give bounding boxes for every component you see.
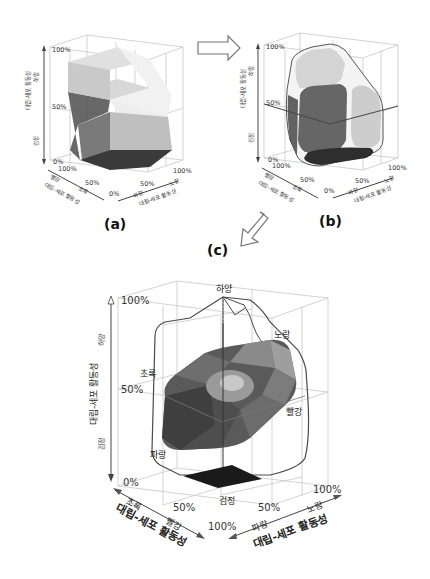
panel-a: 대립-세포 활동성 하양 검정 100% 50% 0% 100% 50% 0% … — [24, 35, 192, 232]
panel-a-arrowhead-up-icon — [42, 45, 46, 51]
panel-c-vertical-bottom-end: 검정 — [97, 438, 106, 450]
panel-c-left-arrowhead-2-icon — [196, 532, 205, 539]
panel-c-tick-l-100: 100% — [208, 521, 237, 532]
panel-b: 대립-세포 활동성 하양 검정 100% 50% 0% 100% 50% 0% … — [239, 33, 407, 229]
panel-a-tick-r-100: 100% — [173, 167, 192, 175]
panel-c-tick-r-50: 50% — [258, 502, 280, 513]
panel-c-right-end-a: 파랑 — [250, 518, 269, 534]
panel-a-tick-v-50: 50% — [52, 103, 66, 111]
panel-c-vertical-axis-title: 대립-세포 활동성 — [88, 363, 99, 425]
panel-a-vertical-top-end: 하양 — [32, 72, 40, 82]
panel-a-color-solid — [68, 47, 172, 170]
panel-c-tick-v-100: 100% — [121, 295, 150, 306]
panel-c-label-yellow: 노랑 — [274, 329, 290, 340]
panel-a-left-end-a: 빨강 — [50, 173, 62, 184]
panel-c-arrowhead-down-icon — [108, 474, 114, 482]
panel-b-tick-r-50: 50% — [355, 177, 369, 185]
arrow-down-left-icon — [241, 212, 268, 246]
figure-canvas: 대립-세포 활동성 하양 검정 100% 50% 0% 100% 50% 0% … — [0, 0, 430, 579]
panel-a-tick-l-100: 100% — [58, 165, 77, 173]
panel-c-hue-slice — [162, 340, 305, 450]
panel-c-left-arrowhead-icon — [113, 488, 122, 495]
panel-c-black-base — [183, 465, 262, 488]
panel-a-tick-l-0: 0% — [109, 190, 119, 198]
panel-b-color-solid — [264, 44, 398, 166]
panel-b-right-end-a: 파랑 — [347, 186, 359, 197]
panel-c-right-axis-title: 대립-세포 활동성 — [251, 511, 329, 551]
arrow-right-icon — [198, 36, 240, 60]
panel-b-vertical-bottom-end: 검정 — [248, 133, 254, 143]
panel-c-label-blue: 파랑 — [150, 449, 166, 460]
panel-a-left-end-b: 초록 — [77, 186, 89, 197]
panel-c-tick-l-50: 50% — [173, 502, 195, 513]
panel-c-label-red: 빨강 — [286, 407, 302, 417]
panel-c-right-arrowhead-icon — [228, 533, 237, 539]
panel-a-tick-l-50: 50% — [85, 179, 99, 187]
panel-b-arrowhead-down-icon — [256, 157, 260, 163]
panel-b-tick-l-100: 100% — [272, 162, 291, 170]
panel-c-tick-v-0: 0% — [123, 477, 139, 488]
panel-a-vertical-axis-title: 대립-세포 활동성 — [24, 71, 32, 110]
panel-c-tick-r-100: 100% — [313, 484, 342, 495]
panel-c-label-black: 검정 — [219, 495, 235, 506]
panel-c-label-white: 하양 — [216, 284, 232, 294]
panel-a-tick-r-50: 50% — [140, 180, 154, 188]
panel-c-tick-v-50: 50% — [121, 384, 143, 395]
panel-a-vertical-bottom-end: 검정 — [33, 136, 39, 146]
panel-c: 하양 노랑 초록 빨강 파랑 검정 대립-세포 활동성 하양 검정 100% 5… — [88, 281, 342, 551]
panel-b-tick-v-50: 50% — [266, 99, 280, 107]
panel-a-label: (a) — [104, 216, 126, 232]
panel-b-label: (b) — [319, 213, 342, 229]
panel-b-arrowhead-up-icon — [256, 43, 260, 49]
panel-b-left-end-a: 빨강 — [264, 171, 276, 182]
panel-a-tick-v-100: 100% — [52, 46, 71, 54]
panel-b-left-end-b: 초록 — [291, 184, 303, 195]
panel-a-right-axis-title: 대립-세포 활동성 — [138, 187, 177, 208]
panel-a-arrowhead-down-icon — [42, 159, 46, 165]
panel-c-vertical-top-end: 하양 — [97, 333, 106, 346]
panel-b-tick-l-0: 0% — [324, 187, 334, 195]
panel-c-right-arrowhead-2-icon — [333, 495, 342, 500]
panel-c-label-green: 초록 — [140, 369, 156, 379]
panel-a-right-end-a: 파랑 — [132, 189, 144, 200]
panel-b-tick-v-100: 100% — [266, 43, 285, 51]
panel-c-arrowhead-up-icon — [108, 296, 114, 304]
panel-b-tick-r-100: 100% — [388, 164, 407, 172]
panel-b-right-axis-title: 대립-세포 활동성 — [353, 184, 392, 205]
panel-b-tick-l-50: 50% — [300, 176, 314, 184]
panel-b-right-end-b: 노랑 — [383, 175, 394, 184]
panel-c-label: (c) — [207, 242, 228, 258]
panel-b-vertical-top-end: 하양 — [247, 66, 255, 76]
panel-a-right-end-b: 노랑 — [168, 178, 179, 187]
panel-b-vertical-axis-title: 대립-세포 활동성 — [239, 69, 247, 108]
